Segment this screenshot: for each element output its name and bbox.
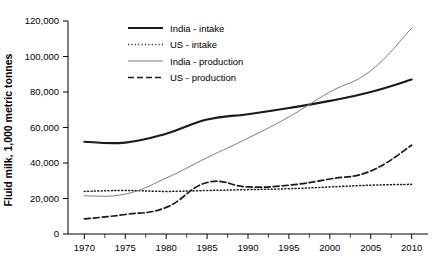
- y-tick-label: 100,000: [25, 51, 59, 62]
- x-tick-label: 1995: [278, 242, 299, 253]
- x-tick-label: 1970: [74, 242, 95, 253]
- chart-background: [0, 0, 435, 278]
- x-tick-label: 1980: [156, 242, 177, 253]
- y-tick-label: 60,000: [30, 122, 59, 133]
- y-axis-title: Fluid milk, 1,000 metric tonnes: [2, 53, 14, 206]
- legend-label-0: India - intake: [170, 23, 224, 34]
- line-chart: Fluid milk, 1,000 metric tonnes 020,0004…: [0, 0, 435, 278]
- y-tick-label: 20,000: [30, 193, 59, 204]
- x-tick-label: 1975: [115, 242, 136, 253]
- y-tick-label: 80,000: [30, 86, 59, 97]
- x-tick-label: 1985: [197, 242, 218, 253]
- x-tick-label: 2005: [360, 242, 381, 253]
- y-tick-label: 0: [54, 228, 59, 239]
- chart-container: Fluid milk, 1,000 metric tonnes 020,0004…: [0, 0, 435, 278]
- legend-label-2: India - production: [170, 56, 243, 67]
- x-tick-label: 1990: [237, 242, 258, 253]
- legend-label-1: US - intake: [170, 39, 217, 50]
- y-tick-label: 120,000: [25, 15, 59, 26]
- x-tick-label: 2010: [401, 242, 422, 253]
- y-tick-label: 40,000: [30, 157, 59, 168]
- x-tick-label: 2000: [319, 242, 340, 253]
- legend-label-3: US - production: [170, 72, 236, 83]
